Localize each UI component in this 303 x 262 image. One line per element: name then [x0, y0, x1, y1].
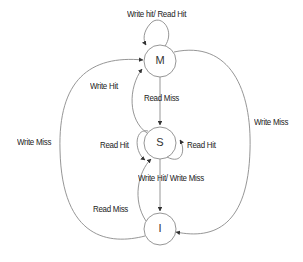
state-s-label: S	[145, 136, 175, 148]
edge-m-self-loop	[144, 20, 169, 46]
label-read-hit-right: Read Hit	[187, 140, 216, 150]
label-write-hit: Write Hit	[90, 81, 118, 91]
label-read-hit-left: Read Hit	[100, 140, 129, 150]
label-write-miss-left: Write Miss	[17, 137, 51, 147]
state-i-label: I	[145, 222, 175, 234]
edge-i-to-s	[138, 159, 151, 221]
label-m-self-loop: Write hit/ Read Hit	[127, 9, 186, 19]
label-read-miss-i-s: Read Miss	[93, 204, 128, 214]
label-write-miss-right: Write Miss	[254, 117, 288, 127]
label-s-to-i: Write Hit/ Write Miss	[138, 173, 204, 183]
label-read-miss-m-s: Read Miss	[144, 93, 179, 103]
state-m-label: M	[145, 54, 175, 66]
